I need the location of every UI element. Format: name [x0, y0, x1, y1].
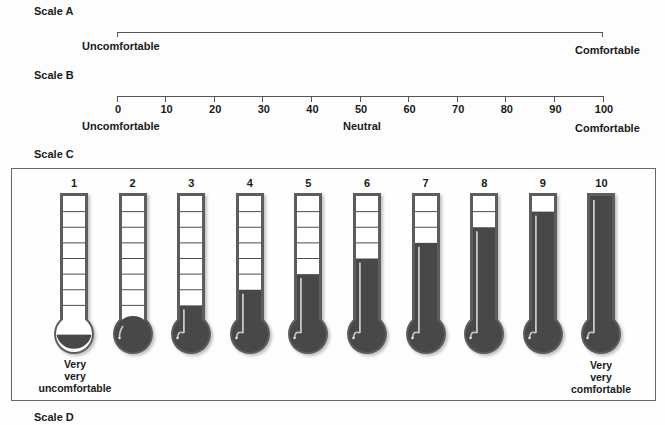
scale-b-tick-label: 100: [595, 103, 613, 115]
scale-b-left-label: Uncomfortable: [82, 120, 160, 132]
scale-c-right-caption: Very very comfortable: [546, 359, 656, 395]
scale-a-left-tick: [117, 32, 118, 37]
scale-a-title: Scale A: [34, 5, 73, 17]
scale-b-tick-label: 40: [306, 103, 318, 115]
thermometer-4[interactable]: 4: [225, 169, 275, 409]
scale-b-tick: [262, 96, 263, 102]
scale-b-center-label: Neutral: [343, 120, 381, 132]
scale-b-tick: [214, 96, 215, 102]
thermometer-5[interactable]: 5: [283, 169, 333, 409]
scale-b-right-label: Comfortable: [575, 122, 640, 134]
scale-b-tick-label: 70: [452, 103, 464, 115]
scale-a-right-label: Comfortable: [575, 44, 640, 56]
scale-b-tick-label: 90: [549, 103, 561, 115]
scale-a-left-label: Uncomfortable: [82, 40, 160, 52]
scale-b-tick: [554, 96, 555, 102]
scale-c-title: Scale C: [34, 148, 74, 160]
scale-b-tick-label: 80: [501, 103, 513, 115]
scale-d-title: Scale D: [34, 411, 74, 423]
scale-b-tick: [505, 96, 506, 102]
scale-b-tick: [457, 96, 458, 102]
scale-b-tick-label: 0: [115, 103, 121, 115]
scale-b-tick: [360, 96, 361, 102]
thermometer-3[interactable]: 3: [166, 169, 216, 409]
caption-line: comfortable: [546, 383, 656, 395]
scale-b-tick: [603, 96, 604, 102]
scale-b-title: Scale B: [34, 69, 74, 81]
scale-b-tick-label: 10: [160, 103, 172, 115]
scale-b-tick-label: 50: [355, 103, 367, 115]
thermometer-7[interactable]: 7: [401, 169, 451, 409]
scale-b-tick-label: 60: [403, 103, 415, 115]
thermometer-8[interactable]: 8: [459, 169, 509, 409]
scale-b-tick-label: 20: [209, 103, 221, 115]
scale-b-tick: [408, 96, 409, 102]
caption-line: very: [20, 370, 130, 382]
thermometer-6[interactable]: 6: [342, 169, 392, 409]
caption-line: Very: [20, 358, 130, 370]
scale-a-right-tick: [602, 32, 603, 37]
scale-c-panel: 1 2: [11, 168, 656, 401]
scale-b-tick: [117, 96, 118, 102]
scale-b-tick-label: 30: [258, 103, 270, 115]
caption-line: Very: [546, 359, 656, 371]
scale-b-tick: [311, 96, 312, 102]
scale-a-line[interactable]: [117, 32, 603, 33]
scale-b-tick: [165, 96, 166, 102]
caption-line: very: [546, 371, 656, 383]
scale-c-left-caption: Very very uncomfortable: [20, 358, 130, 394]
caption-line: uncomfortable: [20, 382, 130, 394]
